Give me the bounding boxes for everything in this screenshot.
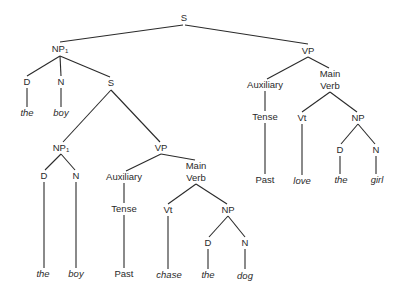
node-subscript: 1 <box>65 48 69 54</box>
tree-node-label: D <box>24 76 31 87</box>
tree-node-label: S <box>181 12 187 23</box>
tree-edge <box>228 216 245 237</box>
tree-node-label: D <box>205 237 212 248</box>
tree-node-label: N <box>73 170 80 181</box>
tree-edge <box>196 184 227 204</box>
tree-node-label: S <box>108 77 114 88</box>
tree-edge <box>126 154 161 171</box>
tree-edge <box>302 92 330 112</box>
tree-node-label: Tense <box>252 111 277 122</box>
tree-edges <box>27 25 376 269</box>
tree-node-label: Auxiliary <box>247 79 283 90</box>
leaf-word: the <box>20 107 33 118</box>
node-subscript: 1 <box>66 147 70 153</box>
tree-node-label: VP <box>302 45 315 56</box>
tree-node-label: Tense <box>111 203 136 214</box>
tree-edge <box>45 154 61 170</box>
tree-edge <box>63 90 111 142</box>
tree-node-label: Verb <box>320 80 340 91</box>
tree-node-label: VP <box>155 142 168 153</box>
tree-node-label: Auxiliary <box>106 171 142 182</box>
tree-node-label: D <box>41 170 48 181</box>
tree-edge <box>185 25 308 44</box>
leaf-word: the <box>201 269 214 280</box>
leaf-word: boy <box>53 107 70 118</box>
tree-node-label: Past <box>114 268 133 279</box>
leaf-word: the <box>334 174 347 185</box>
tree-edge <box>60 56 61 76</box>
tree-edge <box>27 56 60 76</box>
tree-node-label: NP <box>221 204 234 215</box>
tree-node-label: Vt <box>164 204 173 215</box>
tree-edge <box>267 57 308 79</box>
leaf-word: love <box>293 175 310 186</box>
syntax-tree-diagram: SNP1DNStheboyNP1VPDNtheboyAuxiliaryMainV… <box>0 0 403 296</box>
tree-edge <box>60 56 110 77</box>
tree-edge <box>168 184 196 204</box>
tree-edge <box>209 216 228 237</box>
tree-node-label: N <box>242 237 249 248</box>
tree-node-label: Past <box>255 174 274 185</box>
leaf-word: girl <box>371 174 385 185</box>
tree-nodes: SNP1DNStheboyNP1VPDNtheboyAuxiliaryMainV… <box>20 12 384 281</box>
tree-edge <box>111 90 160 142</box>
tree-node-label: N <box>58 76 65 87</box>
tree-node-label: D <box>337 144 344 155</box>
leaf-word: boy <box>68 268 85 279</box>
tree-edge <box>60 25 183 42</box>
tree-node-label: Verb <box>186 172 206 183</box>
tree-edge <box>61 154 75 170</box>
leaf-word: dog <box>237 270 254 281</box>
tree-node-label: NP <box>351 112 364 123</box>
tree-edge <box>330 92 357 112</box>
leaf-word: chase <box>156 269 181 280</box>
leaf-word: the <box>36 268 49 279</box>
tree-node-label: NP1 <box>52 43 69 54</box>
tree-node-label: Vt <box>298 112 307 123</box>
tree-edge <box>358 124 375 144</box>
tree-node-label: Main <box>186 160 207 171</box>
tree-node-label: Main <box>320 68 341 79</box>
tree-edge <box>341 124 358 144</box>
tree-edge <box>308 57 329 68</box>
tree-node-label: NP1 <box>53 142 70 153</box>
tree-node-label: N <box>373 144 380 155</box>
